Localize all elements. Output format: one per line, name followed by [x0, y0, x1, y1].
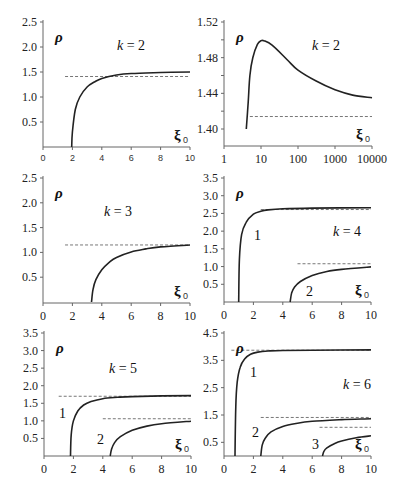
chart-panel-f: 0.51.52.53.54.50246810ρξ0k = 6 — [203, 326, 377, 476]
y-tick-label: 3.5 — [203, 353, 218, 367]
x-tick-label: 8 — [158, 153, 163, 163]
x-tick-label: 2 — [69, 309, 75, 323]
x-axis-label: ξ — [174, 127, 181, 143]
x-tick-label: 6 — [309, 462, 315, 476]
x-tick-label: 10 — [365, 462, 377, 476]
x-tick-label: 10 — [255, 152, 267, 166]
x-axis-label-subscript: 0 — [364, 444, 369, 454]
y-tick-label: 2.5 — [22, 15, 37, 29]
x-tick-label: 0 — [221, 308, 227, 322]
curve-1 — [239, 208, 371, 302]
y-tick-label: 1.5 — [22, 65, 37, 79]
x-axis-label-subscript: 0 — [364, 290, 369, 300]
x-tick-label: 10 — [184, 309, 196, 323]
y-tick-label: 3.0 — [203, 189, 218, 203]
x-axis-label: ξ — [174, 283, 181, 299]
y-tick-label: 2.0 — [23, 379, 38, 393]
x-axis-label-subscript: 0 — [184, 444, 189, 454]
curve-number-label: 3 — [312, 437, 319, 452]
x-tick-label: 4 — [99, 309, 105, 323]
chart-panel-d: 0.51.01.52.02.53.03.50246810ρξ0k = 4 — [203, 171, 377, 322]
x-tick-label: 10 — [185, 462, 197, 476]
y-tick-label: 3.5 — [23, 326, 38, 340]
x-tick-label: 10 — [365, 308, 377, 322]
y-tick-label: 1.5 — [23, 396, 38, 410]
x-tick-label: 4 — [280, 462, 286, 476]
x-axis-label: ξ — [175, 436, 182, 452]
y-tick-label: 1.5 — [203, 242, 218, 256]
y-tick-label: 0.5 — [203, 277, 218, 291]
y-tick-label: 1.5 — [203, 408, 218, 422]
x-tick-label: 0 — [40, 309, 46, 323]
x-tick-label: 10000 — [357, 152, 387, 166]
x-tick-label: 0 — [40, 153, 45, 163]
x-tick-label: 8 — [339, 308, 345, 322]
y-tick-label: 2.5 — [203, 381, 218, 395]
y-tick-label: 1.52 — [197, 15, 218, 29]
y-tick-label: 2.5 — [23, 361, 38, 375]
x-tick-label: 1 — [221, 152, 227, 166]
y-tick-label: 0.5 — [23, 431, 38, 445]
y-tick-label: 2.5 — [203, 206, 218, 220]
y-axis-label: ρ — [235, 185, 244, 201]
x-tick-label: 6 — [129, 462, 135, 476]
curve-curve — [72, 72, 190, 147]
k-annotation: k = 6 — [343, 377, 371, 392]
y-tick-label: 0.5 — [22, 270, 37, 284]
y-tick-label: 3.5 — [203, 171, 218, 185]
x-axis-label: ξ — [356, 126, 363, 142]
curve-1 — [71, 396, 192, 456]
x-tick-label: 4 — [100, 462, 106, 476]
x-tick-label: 4 — [99, 153, 104, 163]
curve-curve — [246, 40, 372, 129]
curve-number-label: 1 — [59, 406, 66, 421]
k-annotation: k = 2 — [117, 38, 145, 53]
x-axis-label: ξ — [355, 436, 362, 452]
x-tick-label: 10 — [185, 153, 195, 163]
y-tick-label: 4.5 — [203, 326, 218, 340]
y-tick-label: 2.0 — [22, 40, 37, 54]
y-tick-label: 1.40 — [197, 122, 218, 136]
x-tick-label: 0 — [221, 462, 227, 476]
curve-number-label: 2 — [306, 284, 313, 299]
k-annotation: k = 3 — [104, 204, 132, 219]
y-tick-label: 1.0 — [203, 260, 218, 274]
k-annotation: k = 4 — [333, 224, 361, 239]
chart-panel-c: 0.51.01.52.02.50246810ρξ0k = 3 — [22, 171, 196, 323]
y-tick-label: 1.5 — [22, 221, 37, 235]
x-tick-label: 6 — [128, 309, 134, 323]
x-axis-label-subscript: 0 — [183, 135, 188, 145]
curve-number-label: 1 — [250, 365, 257, 380]
y-axis-label: ρ — [235, 340, 244, 356]
y-tick-label: 2.0 — [203, 224, 218, 238]
y-tick-label: 1.44 — [197, 86, 218, 100]
x-tick-label: 8 — [158, 309, 164, 323]
k-annotation: k = 5 — [109, 361, 137, 376]
y-tick-label: 1.48 — [197, 51, 218, 65]
y-tick-label: 0.5 — [22, 115, 37, 129]
x-tick-label: 8 — [159, 462, 165, 476]
x-tick-label: 6 — [309, 308, 315, 322]
y-axis-label: ρ — [55, 340, 64, 356]
y-tick-label: 0.5 — [203, 435, 218, 449]
x-tick-label: 0 — [41, 462, 47, 476]
chart-panel-e: 0.51.01.52.02.53.03.50246810ρξ0k = 5 — [23, 326, 197, 476]
figure: 0.51.01.52.02.50246810ρξ0k = 21.401.441.… — [0, 0, 403, 489]
y-tick-label: 1.0 — [22, 245, 37, 259]
y-tick-label: 1.0 — [22, 90, 37, 104]
y-tick-label: 3.0 — [23, 344, 38, 358]
curve-number-label: 2 — [252, 425, 259, 440]
x-tick-label: 2 — [70, 153, 75, 163]
x-tick-label: 2 — [70, 462, 76, 476]
curve-number-label: 1 — [254, 228, 261, 243]
x-tick-label: 1000 — [323, 152, 347, 166]
x-axis-label-subscript: 0 — [183, 291, 188, 301]
y-tick-label: 2.5 — [22, 171, 37, 185]
y-axis-label: ρ — [54, 185, 63, 201]
k-annotation: k = 2 — [312, 38, 340, 53]
x-tick-label: 4 — [280, 308, 286, 322]
x-tick-label: 100 — [289, 152, 307, 166]
y-axis-label: ρ — [235, 29, 244, 45]
chart-panel-b: 1.401.441.481.52110100100010000ρξ0k = 2 — [197, 15, 387, 166]
y-tick-label: 2.0 — [22, 196, 37, 210]
